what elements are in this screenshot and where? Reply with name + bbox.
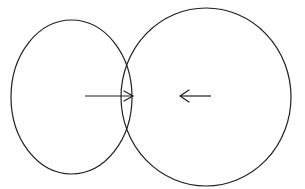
- diagram-canvas: [0, 0, 305, 189]
- two-circles-diagram: [0, 0, 305, 189]
